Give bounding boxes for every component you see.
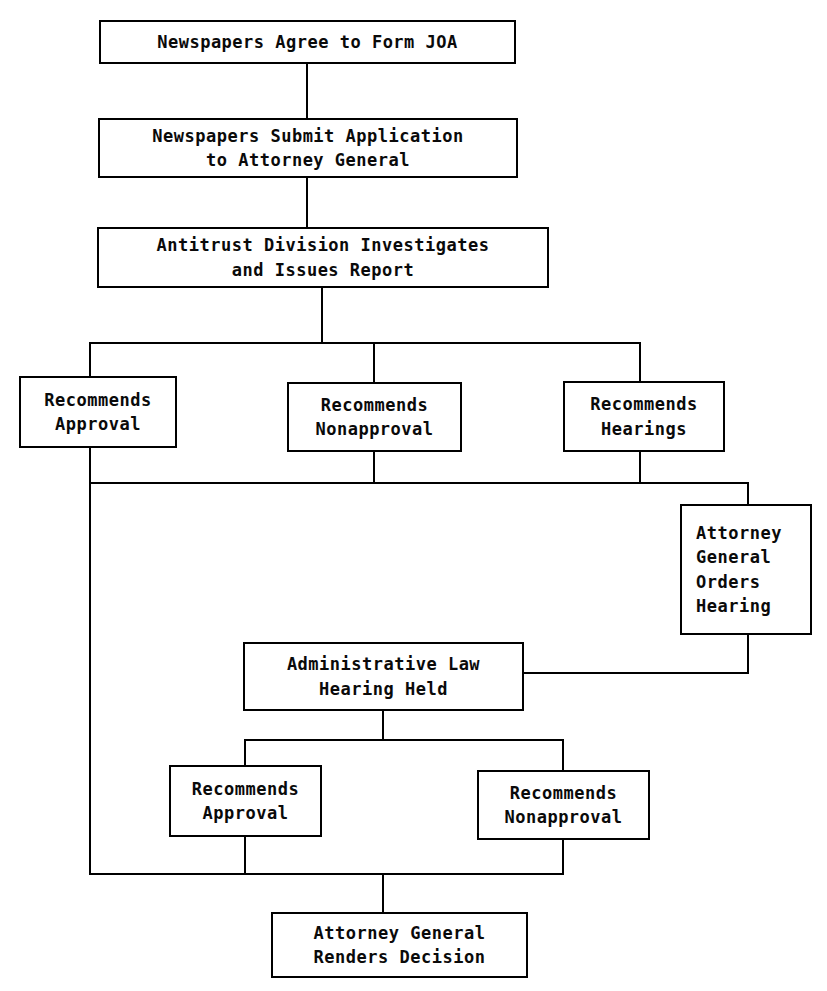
node-label-attorney-general-orders-hearing: Attorney General Orders Hearing: [696, 521, 782, 618]
node-label-attorney-general-renders-decision: Attorney General Renders Decision: [314, 921, 486, 969]
node-label-newspapers-submit: Newspapers Submit Application to Attorne…: [152, 124, 463, 172]
node-recommends-approval-1: Recommends Approval: [19, 376, 177, 448]
node-recommends-nonapproval-1: Recommends Nonapproval: [287, 382, 462, 452]
node-label-antitrust-division: Antitrust Division Investigates and Issu…: [157, 233, 490, 281]
node-label-recommends-approval-1: Recommends Approval: [44, 388, 151, 436]
node-administrative-law-hearing: Administrative Law Hearing Held: [243, 642, 524, 711]
node-label-recommends-nonapproval-1: Recommends Nonapproval: [315, 393, 433, 441]
node-label-administrative-law-hearing: Administrative Law Hearing Held: [287, 652, 480, 700]
node-attorney-general-renders-decision: Attorney General Renders Decision: [271, 912, 528, 978]
node-label-recommends-nonapproval-2: Recommends Nonapproval: [504, 781, 622, 829]
flowchart-canvas: Newspapers Agree to Form JOANewspapers S…: [0, 0, 827, 991]
node-attorney-general-orders-hearing: Attorney General Orders Hearing: [680, 504, 812, 635]
node-recommends-nonapproval-2: Recommends Nonapproval: [477, 770, 650, 840]
node-antitrust-division: Antitrust Division Investigates and Issu…: [97, 227, 549, 288]
node-recommends-approval-2: Recommends Approval: [169, 765, 322, 837]
node-label-recommends-approval-2: Recommends Approval: [192, 777, 299, 825]
node-label-newspapers-agree: Newspapers Agree to Form JOA: [157, 30, 458, 54]
node-newspapers-submit: Newspapers Submit Application to Attorne…: [98, 118, 518, 178]
node-newspapers-agree: Newspapers Agree to Form JOA: [99, 20, 516, 64]
node-label-recommends-hearings: Recommends Hearings: [590, 392, 697, 440]
node-recommends-hearings: Recommends Hearings: [563, 381, 725, 452]
